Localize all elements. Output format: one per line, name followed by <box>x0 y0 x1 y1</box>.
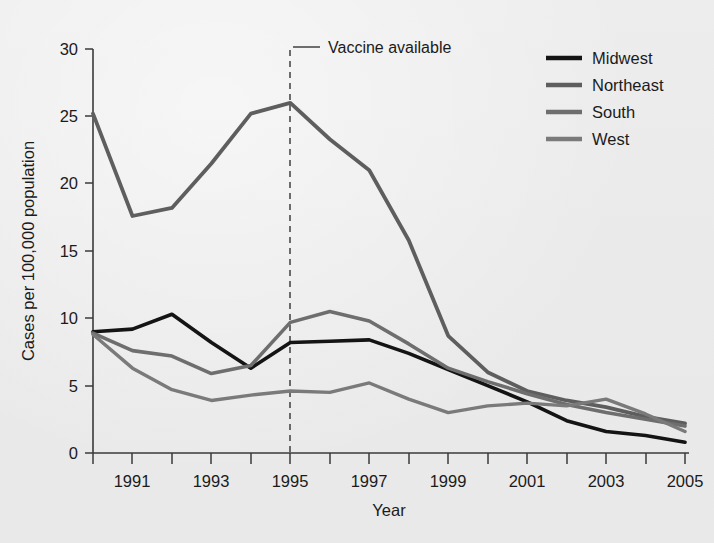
y-tick-labels: 30 25 20 15 10 5 0 <box>60 40 78 462</box>
series-layer <box>93 103 685 442</box>
legend-item-midwest[interactable]: Midwest <box>546 49 653 67</box>
line-chart: 30 25 20 15 10 5 0 Cases per 100,000 pop… <box>0 0 714 543</box>
legend-label-south: South <box>592 103 635 121</box>
y-tick-label: 5 <box>69 377 78 395</box>
legend-label-west: West <box>592 130 630 148</box>
legend-item-northeast[interactable]: Northeast <box>546 76 664 94</box>
series-line-west <box>93 334 685 431</box>
series-line-south <box>93 312 685 426</box>
legend-label-northeast: Northeast <box>592 76 664 94</box>
x-axis-title: Year <box>372 501 406 519</box>
y-tick-label: 30 <box>60 40 78 58</box>
x-tick-label: 2003 <box>588 472 625 490</box>
legend-label-midwest: Midwest <box>592 49 653 67</box>
y-tick-label: 20 <box>60 174 78 192</box>
y-axis-title: Cases per 100,000 population <box>19 141 37 361</box>
x-tick-label: 1997 <box>351 472 388 490</box>
y-tick-marks <box>85 49 93 453</box>
x-tick-label: 1993 <box>193 472 230 490</box>
vaccine-available-label: Vaccine available <box>328 39 451 56</box>
y-tick-label: 25 <box>60 107 78 125</box>
series-line-northeast <box>93 103 685 424</box>
x-tick-label: 2005 <box>667 472 704 490</box>
x-tick-label: 1995 <box>272 472 309 490</box>
chart-legend: MidwestNortheastSouthWest <box>546 49 664 148</box>
x-tick-labels: 1991 1993 1995 1997 1999 2001 2003 2005 <box>114 472 704 490</box>
x-tick-label: 1991 <box>114 472 151 490</box>
y-tick-label: 10 <box>60 309 78 327</box>
legend-item-west[interactable]: West <box>546 130 630 148</box>
x-tick-label: 2001 <box>509 472 546 490</box>
y-tick-label: 15 <box>60 242 78 260</box>
y-tick-label: 0 <box>69 444 78 462</box>
x-tick-label: 1999 <box>430 472 467 490</box>
x-tick-marks <box>93 453 685 464</box>
legend-item-south[interactable]: South <box>546 103 635 121</box>
chart-screenshot: 30 25 20 15 10 5 0 Cases per 100,000 pop… <box>0 0 714 543</box>
